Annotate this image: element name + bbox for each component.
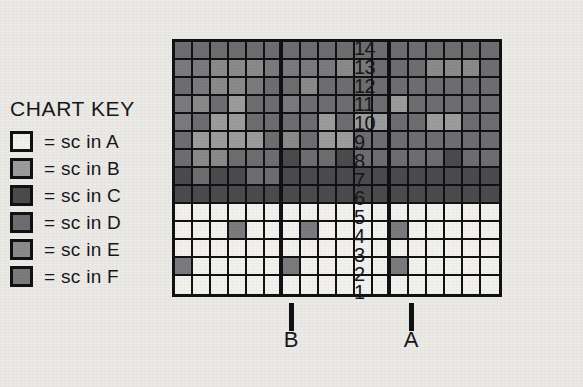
stitch-cell (427, 276, 445, 294)
stitch-cell (409, 258, 427, 276)
stitch-cell (445, 276, 463, 294)
stitch-cell (301, 150, 319, 168)
stitch-cell (319, 78, 337, 96)
stitch-cell (391, 222, 409, 240)
stitch-cell (463, 240, 481, 258)
stitch-cell (247, 168, 265, 186)
stitch-cell (175, 78, 193, 96)
stitch-cell (391, 114, 409, 132)
row-number-label: 9 (348, 133, 388, 152)
stitch-cell (391, 240, 409, 258)
stitch-cell (463, 276, 481, 294)
stitch-cell (427, 240, 445, 258)
stitch-cell (211, 96, 229, 114)
row-number-column: 1413121110987654321 (348, 39, 388, 302)
stitch-cell (211, 258, 229, 276)
stitch-cell (319, 96, 337, 114)
stitch-cell (229, 114, 247, 132)
stitch-cell (481, 276, 499, 294)
stitch-cell (211, 186, 229, 204)
stitch-cell (481, 42, 499, 60)
key-row-c: = sc in C (8, 182, 176, 209)
stitch-cell (391, 78, 409, 96)
stitch-cell (391, 96, 409, 114)
stitch-cell (247, 96, 265, 114)
stitch-cell (301, 276, 319, 294)
chart-key-list: = sc in A= sc in B= sc in C= sc in D= sc… (8, 128, 176, 290)
key-swatch-c (10, 185, 33, 206)
stitch-cell (193, 258, 211, 276)
stitch-cell (211, 132, 229, 150)
stitch-cell (193, 78, 211, 96)
stitch-cell (193, 168, 211, 186)
stitch-cell (193, 96, 211, 114)
stitch-cell (247, 240, 265, 258)
stitch-cell (301, 132, 319, 150)
stitch-cell (247, 114, 265, 132)
stitch-cell (193, 222, 211, 240)
stitch-cell (301, 204, 319, 222)
stitch-cell (481, 258, 499, 276)
stitch-cell (301, 222, 319, 240)
stitch-cell (445, 258, 463, 276)
stitch-cell (265, 114, 283, 132)
key-row-f: = sc in F (8, 263, 176, 290)
stitch-cell (265, 186, 283, 204)
stitch-cell (265, 168, 283, 186)
stitch-cell (409, 60, 427, 78)
stitch-cell (427, 132, 445, 150)
stitch-cell (481, 168, 499, 186)
stitch-cell (229, 132, 247, 150)
stitch-cell (193, 114, 211, 132)
stitch-cell (427, 114, 445, 132)
stitch-cell (391, 42, 409, 60)
key-swatch-f (10, 266, 33, 287)
stitch-cell (175, 168, 193, 186)
stitch-cell (265, 96, 283, 114)
row-number-label: 13 (348, 58, 388, 77)
stitch-cell (175, 240, 193, 258)
stitch-cell (481, 132, 499, 150)
key-swatch-e (10, 239, 33, 260)
stitch-cell (211, 60, 229, 78)
stitch-cell (175, 42, 193, 60)
key-label-e: = sc in E (44, 240, 120, 259)
stitch-cell (445, 186, 463, 204)
stitch-cell (265, 150, 283, 168)
stitch-cell (427, 258, 445, 276)
stitch-cell (445, 132, 463, 150)
section-marker-b-label: B (284, 329, 299, 351)
key-label-f: = sc in F (44, 267, 119, 286)
stitch-cell (409, 276, 427, 294)
stitch-cell (481, 114, 499, 132)
stitch-cell (247, 78, 265, 96)
stitch-cell (319, 204, 337, 222)
stitch-cell (427, 168, 445, 186)
stitch-cell (319, 222, 337, 240)
stitch-cell (391, 204, 409, 222)
stitch-cell (391, 186, 409, 204)
stitch-cell (265, 42, 283, 60)
stitch-cell (301, 240, 319, 258)
stitch-cell (427, 60, 445, 78)
stitch-cell (283, 60, 301, 78)
key-row-a: = sc in A (8, 128, 176, 155)
stitch-cell (175, 276, 193, 294)
stitch-cell (283, 96, 301, 114)
stitch-cell (175, 60, 193, 78)
stitch-cell (391, 132, 409, 150)
stitch-cell (481, 78, 499, 96)
stitch-cell (247, 42, 265, 60)
stitch-cell (265, 78, 283, 96)
stitch-cell (409, 240, 427, 258)
stitch-cell (283, 186, 301, 204)
key-label-c: = sc in C (44, 186, 121, 205)
stitch-cell (175, 96, 193, 114)
stitch-cell (409, 204, 427, 222)
stitch-cell (463, 60, 481, 78)
stitch-cell (265, 204, 283, 222)
stitch-cell (265, 222, 283, 240)
stitch-cell (211, 222, 229, 240)
stitch-cell (409, 132, 427, 150)
stitch-cell (409, 114, 427, 132)
